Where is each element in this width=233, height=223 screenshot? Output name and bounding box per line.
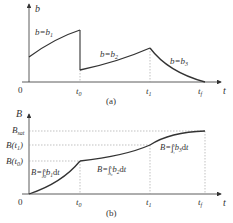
x-label-b: t: [223, 197, 226, 208]
tick-tf-a: tf: [198, 86, 204, 97]
y-label-b: B: [16, 108, 22, 119]
segment-label-B1: B=∫t₀0b1dt: [31, 167, 60, 179]
tick-tf-b: tf: [198, 197, 204, 208]
tick-t1-a: t1: [146, 86, 152, 97]
tick-bt1: B(t1): [6, 140, 23, 151]
origin-label-b: 0: [18, 197, 23, 207]
tick-t0-b: t0: [76, 197, 82, 208]
curve-B2: [80, 145, 150, 161]
tick-bt0: B(t0): [6, 156, 23, 167]
segment-label-b3: b=b3: [170, 56, 188, 67]
origin-label-a: 0: [18, 85, 23, 95]
tick-bsat: Bsat: [12, 125, 25, 136]
panel-b: B t 0 Bsat B(t1) B(t0) B=∫t₀0b1dt B=∫t₁t…: [6, 108, 226, 218]
segment-label-b1: b=b1: [35, 27, 53, 38]
panel-a: b t 0 b=b1 b=b2 b=b3 t0 t1 tf (a): [18, 3, 226, 106]
caption-a: (a): [106, 96, 116, 106]
tick-t0-a: t0: [76, 86, 82, 97]
x-label-a: t: [223, 85, 226, 96]
figure: b t 0 b=b1 b=b2 b=b3 t0 t1 tf (a) B t 0 …: [0, 0, 233, 223]
curve-B1: [29, 161, 80, 194]
tick-t1-b: t1: [146, 197, 152, 208]
segment-label-b2: b=b2: [100, 49, 118, 60]
segment-label-B3: B=∫tt₁b3dt: [160, 142, 189, 154]
caption-b: (b): [106, 208, 117, 218]
y-label-a: b: [35, 3, 40, 14]
segment-label-B2: B=∫t₁t₀b2dt: [97, 164, 127, 176]
